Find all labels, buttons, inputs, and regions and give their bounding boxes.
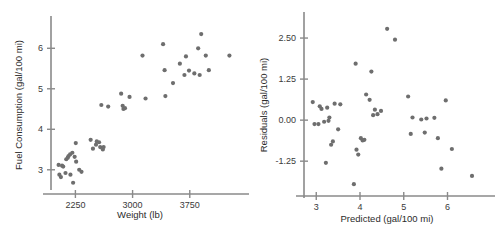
right-x-tick-label: 5 [401,202,406,212]
data-point [470,174,474,178]
data-point [199,32,203,36]
data-point [192,71,196,75]
data-point [410,115,414,119]
right-y-tick-label: 2.50 [278,33,296,43]
data-point [97,140,101,144]
right-x-ticks: 3456 [314,192,450,212]
data-point [63,171,67,175]
data-point [184,54,188,58]
data-point [354,62,358,66]
left-axes [43,16,249,194]
left-data-points [57,32,232,185]
data-point [379,109,383,113]
left-y-tick-label: 6 [38,43,43,53]
data-point [73,155,77,159]
data-point [119,92,123,96]
left-x-ticks: 225030003750 [65,190,199,210]
data-point [68,173,72,177]
data-point [140,53,144,57]
data-point [70,151,74,155]
data-point [352,182,356,186]
data-point [59,175,63,179]
right-x-tick-label: 3 [314,202,319,212]
data-point [385,27,389,31]
data-point [102,145,106,149]
right-x-axis-label: Predicted (gal/100 mi) [341,213,434,224]
data-point [432,116,436,120]
data-point [375,112,379,116]
left-y-tick-label: 3 [38,165,43,175]
left-x-tick-label: 2250 [65,200,85,210]
data-point [336,127,340,131]
data-point [207,68,211,72]
data-point [204,53,208,57]
data-point [325,106,329,110]
data-point [319,107,323,111]
data-point [324,161,328,165]
data-point [354,148,358,152]
right-plot-svg: 2.501.250.00-1.25 3456 Predicted (gal/10… [247,0,497,230]
scatter-panel-predicted-vs-residuals: 2.501.250.00-1.25 3456 Predicted (gal/10… [247,0,497,230]
data-point [327,115,331,119]
data-point [106,105,110,109]
data-point [424,116,428,120]
data-point [333,102,337,106]
data-point [322,120,326,124]
left-x-tick-label: 3750 [180,200,200,210]
data-point [369,69,373,73]
data-point [163,68,167,72]
data-point [74,141,78,145]
left-plot-svg: 3456 225030003750 Weight (lb) Fuel Consu… [0,0,250,230]
right-y-ticks: 2.501.250.00-1.25 [275,33,308,166]
data-point [74,160,78,164]
data-point [436,136,440,140]
figure-root: 3456 225030003750 Weight (lb) Fuel Consu… [0,0,497,230]
data-point [89,138,93,142]
data-point [91,147,95,151]
data-point [187,68,191,72]
data-point [171,81,175,85]
data-point [71,181,75,185]
data-point [439,167,443,171]
data-point [178,62,182,66]
data-point [356,153,360,157]
data-point [311,100,315,104]
data-point [127,95,131,99]
right-x-tick-label: 4 [357,202,362,212]
data-point [393,38,397,42]
data-point [312,122,316,126]
data-point [362,138,366,142]
data-point [198,73,202,77]
data-point [61,164,65,168]
data-point [368,98,372,102]
data-point [423,131,427,135]
right-y-tick-label: -1.25 [275,156,296,166]
data-point [409,132,413,136]
data-point [450,147,454,151]
left-y-tick-label: 4 [38,124,43,134]
data-point [364,92,368,96]
data-point [163,94,167,98]
left-y-axis-label: Fuel Consumption (gal/100 mi) [13,40,24,170]
data-point [99,103,103,107]
data-point [316,122,320,126]
data-point [444,98,448,102]
data-point [373,108,377,112]
data-point [79,170,83,174]
right-y-axis-label: Residuals (gal/100 mi) [258,58,269,153]
left-x-axis-label: Weight (lb) [117,209,163,220]
data-point [331,139,335,143]
data-point [227,53,231,57]
data-point [371,113,375,117]
right-data-points [311,27,474,186]
right-y-tick-label: 1.25 [278,74,296,84]
data-point [182,73,186,77]
data-point [406,94,410,98]
right-y-tick-label: 0.00 [278,115,296,125]
scatter-panel-weight-vs-fuel: 3456 225030003750 Weight (lb) Fuel Consu… [0,0,250,230]
data-point [196,46,200,50]
right-x-tick-label: 6 [445,202,450,212]
data-point [143,96,147,100]
left-y-tick-label: 5 [38,84,43,94]
data-point [123,106,127,110]
